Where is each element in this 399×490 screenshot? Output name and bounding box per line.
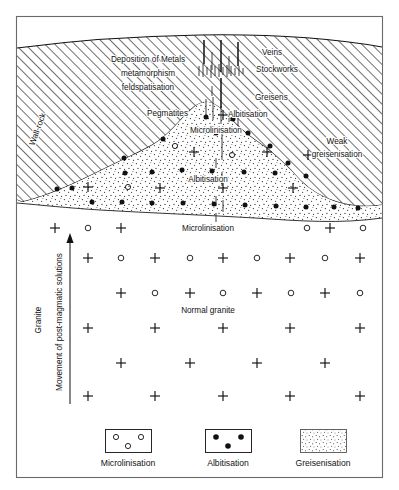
label-microlinisation-zone: Microlinisation	[182, 224, 234, 233]
label-greisens: Greisens	[255, 93, 288, 102]
diagram-canvas: Wall-rock Deposition of Metals metamorph…	[0, 0, 399, 490]
legend: Microlinisation Albitisation Greisenisat…	[101, 430, 351, 469]
label-veins: Veins	[262, 48, 282, 57]
label-normal-granite: Normal granite	[181, 306, 235, 315]
label-albitisation-cupola: Albitisation	[228, 110, 268, 119]
legend-label-albitisation: Albitisation	[207, 458, 249, 468]
label-deposition-line2: metamorphism	[121, 69, 175, 78]
legend-swatch-microlinisation	[106, 430, 152, 453]
label-stockworks: Stockworks	[256, 65, 298, 74]
legend-label-greisenisation: Greisenisation	[296, 458, 351, 468]
legend-item-greisenisation: Greisenisation	[296, 430, 351, 469]
label-weak-line2: greisenisation	[312, 150, 363, 159]
legend-stipple-icon	[301, 430, 346, 452]
legend-item-microlinisation: Microlinisation	[101, 430, 156, 469]
label-deposition-line1: Deposition of Metals	[111, 55, 185, 64]
legend-label-microlinisation: Microlinisation	[101, 458, 156, 468]
label-granite: Granite	[34, 306, 43, 333]
legend-swatch-albitisation	[206, 430, 252, 453]
label-microlinisation-cupola: Microlinisation	[190, 126, 242, 135]
label-weak-line1: Weak	[327, 137, 349, 146]
label-deposition-line3: feldspatisation	[122, 83, 175, 92]
label-albitisation-zone: Albitisation	[188, 175, 228, 184]
label-movement: Movement of post-magmatic solutions	[55, 253, 64, 391]
label-pegmatites: Pegmatites	[147, 109, 188, 118]
geological-diagram: Wall-rock Deposition of Metals metamorph…	[0, 0, 399, 490]
legend-item-albitisation: Albitisation	[206, 430, 252, 469]
